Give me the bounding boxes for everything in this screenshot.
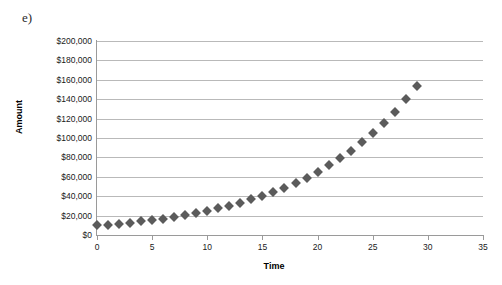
data-point-marker: [280, 183, 290, 193]
data-point-marker: [180, 210, 190, 220]
x-axis-tick-label: 15: [247, 242, 277, 252]
data-point-marker: [257, 191, 267, 201]
data-point-marker: [412, 81, 422, 91]
x-axis-tick-label: 35: [468, 242, 498, 252]
plot-area: [97, 41, 483, 235]
data-point-marker: [213, 203, 223, 213]
gridline: [97, 41, 483, 42]
data-point-marker: [324, 160, 334, 170]
gridline: [97, 60, 483, 61]
x-axis-tick-mark: [483, 236, 484, 240]
data-point-marker: [390, 107, 400, 117]
x-axis-tick-mark: [373, 236, 374, 240]
gridline: [97, 235, 483, 236]
gridline: [97, 138, 483, 139]
data-point-marker: [335, 154, 345, 164]
x-axis-title: Time: [0, 261, 502, 271]
y-axis-tick-label: $200,000: [8, 36, 92, 46]
x-axis-tick-label: 0: [82, 242, 112, 252]
data-point-marker: [136, 216, 146, 226]
y-axis-tick-label: $0: [8, 230, 92, 240]
y-axis-tick-label: $20,000: [8, 211, 92, 221]
data-point-marker: [291, 178, 301, 188]
y-axis-tick-label: $180,000: [8, 55, 92, 65]
data-point-marker: [313, 167, 323, 177]
gridline: [97, 99, 483, 100]
data-point-marker: [401, 94, 411, 104]
data-point-marker: [368, 128, 378, 138]
x-axis-tick-label: 5: [137, 242, 167, 252]
y-axis-tick-label: $140,000: [8, 94, 92, 104]
data-point-marker: [169, 212, 179, 222]
data-point-marker: [224, 201, 234, 211]
data-point-marker: [103, 220, 113, 230]
data-point-marker: [346, 146, 356, 156]
chart-figure: e) Amount $0$20,000$40,000$60,000$80,000…: [0, 0, 502, 285]
gridline: [97, 119, 483, 120]
y-axis-tick-label: $40,000: [8, 191, 92, 201]
x-axis-tick-mark: [97, 236, 98, 240]
gridline: [97, 196, 483, 197]
x-axis-title-text: Time: [264, 261, 285, 271]
x-axis-tick-mark: [318, 236, 319, 240]
y-axis-tick-label: $120,000: [8, 114, 92, 124]
x-axis-tick-label: 30: [413, 242, 443, 252]
x-axis-tick-mark: [207, 236, 208, 240]
gridline: [97, 80, 483, 81]
gridline: [97, 216, 483, 217]
gridline: [97, 177, 483, 178]
x-axis-tick-label: 10: [192, 242, 222, 252]
part-label: e): [22, 10, 32, 26]
data-point-marker: [125, 218, 135, 228]
y-axis-tick-label: $80,000: [8, 152, 92, 162]
data-point-marker: [235, 198, 245, 208]
data-point-marker: [92, 220, 102, 230]
x-axis-tick-label: 20: [303, 242, 333, 252]
y-axis-tick-labels: $0$20,000$40,000$60,000$80,000$100,000$1…: [8, 41, 92, 235]
x-axis-tick-mark: [428, 236, 429, 240]
data-point-marker: [114, 219, 124, 229]
y-axis-tick-label: $60,000: [8, 172, 92, 182]
x-axis-tick-mark: [262, 236, 263, 240]
y-axis-tick-label: $160,000: [8, 75, 92, 85]
y-axis-tick-label: $100,000: [8, 133, 92, 143]
data-point-marker: [202, 206, 212, 216]
x-axis-tick-mark: [152, 236, 153, 240]
data-point-marker: [302, 173, 312, 183]
gridline: [97, 157, 483, 158]
x-axis-tick-label: 25: [358, 242, 388, 252]
